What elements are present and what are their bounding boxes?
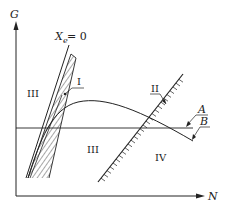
boundary-ii-label: II <box>151 83 159 94</box>
curve-b-label: B <box>199 115 208 128</box>
leader-arrow-icon <box>192 134 196 140</box>
phase-diagram: G N <box>0 0 225 210</box>
region-i-hatch <box>28 54 76 178</box>
region-iii-center-label: III <box>87 144 99 155</box>
curve-b-leader <box>193 127 210 138</box>
y-axis-arrow-icon <box>14 21 19 30</box>
region-iv-label: IV <box>155 152 167 163</box>
xe-zero-label: X e = 0 <box>54 30 87 45</box>
x-axis-arrow-icon <box>196 194 205 199</box>
leader-dot-icon <box>64 93 67 96</box>
y-axis <box>14 21 19 196</box>
svg-text:= 0: = 0 <box>67 30 87 43</box>
x-axis <box>16 194 205 199</box>
region-iii-left-label: III <box>27 88 39 99</box>
y-axis-label: G <box>10 8 19 21</box>
boundary-i-label: I <box>77 76 81 87</box>
x-axis-label: N <box>207 190 218 203</box>
